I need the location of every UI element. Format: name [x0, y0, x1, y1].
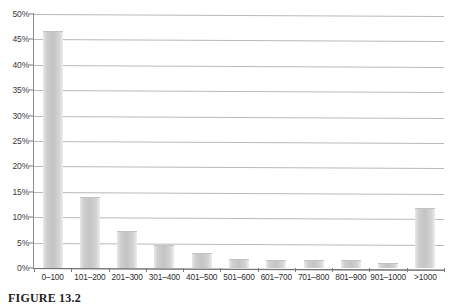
bar — [117, 231, 137, 268]
bar — [154, 245, 174, 268]
y-axis-tick-label: 5% — [17, 238, 29, 248]
y-axis-tick-label: 45% — [13, 34, 29, 44]
x-axis-tick-label: 401–500 — [186, 272, 217, 282]
x-axis-tick-label: 301–400 — [149, 272, 180, 282]
figure-container: 0%5%10%15%20%25%30%35%40%45%50% 0–100101… — [0, 0, 449, 307]
y-axis-tick-label: 15% — [13, 187, 29, 197]
figure-caption: FIGURE 13.2 — [8, 291, 81, 306]
plot-area — [34, 14, 444, 268]
x-axis-tick-label: 801–900 — [335, 272, 366, 282]
x-axis-tick-label: 101–200 — [74, 272, 105, 282]
bar — [341, 260, 361, 268]
y-axis-ticks: 0%5%10%15%20%25%30%35%40%45%50% — [0, 0, 34, 288]
x-axis-tick-label: >1000 — [414, 272, 437, 282]
x-axis-tick-label: 601–700 — [261, 272, 292, 282]
y-axis-tick-label: 10% — [13, 212, 29, 222]
x-axis-tick-label: 0–100 — [41, 272, 63, 282]
x-axis-labels: 0–100101–200201–300301–400401–500501–600… — [0, 272, 449, 286]
y-axis-tick-label: 20% — [13, 161, 29, 171]
y-axis-tick-label: 35% — [13, 85, 29, 95]
x-axis-line — [33, 268, 445, 271]
y-axis-tick-label: 25% — [13, 136, 29, 146]
bar — [43, 31, 63, 268]
x-axis-tick-label: 701–800 — [298, 272, 329, 282]
bar — [80, 197, 100, 268]
y-axis-tick-label: 30% — [13, 111, 29, 121]
bar — [229, 259, 249, 268]
x-axis-tick-label: 501–600 — [223, 272, 254, 282]
x-axis-tick-label: 201–300 — [112, 272, 143, 282]
x-axis-tick-label: 901–1000 — [370, 272, 406, 282]
y-axis-tick-label: 50% — [13, 9, 29, 19]
bar — [266, 260, 286, 268]
bar — [192, 253, 212, 268]
bar-chart: 0%5%10%15%20%25%30%35%40%45%50% 0–100101… — [0, 0, 449, 288]
bar — [304, 260, 324, 268]
bar — [378, 263, 398, 268]
bar — [415, 208, 435, 268]
bar-series — [34, 14, 444, 268]
y-axis-tick-label: 40% — [13, 60, 29, 70]
